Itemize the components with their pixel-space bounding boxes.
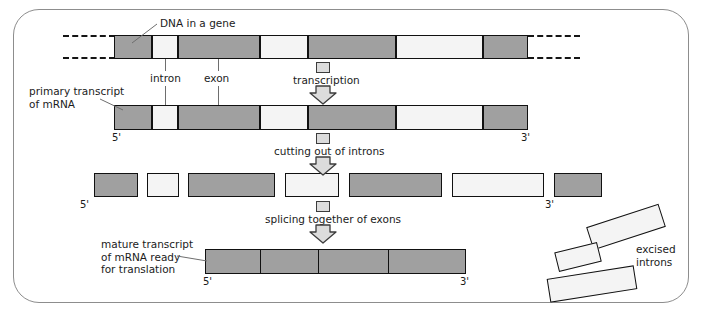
primary-exon-2	[178, 105, 260, 130]
dna-dash-left-top	[63, 35, 115, 37]
intron-label: intron	[150, 72, 181, 85]
dna-intron-2	[260, 35, 308, 59]
dna-intron-1	[152, 35, 178, 59]
primary-five-prime-label: 5'	[112, 132, 121, 143]
primary-intron-3	[396, 105, 483, 130]
cutting-introns-label: cutting out of introns	[274, 145, 385, 158]
intron-leader-upper	[165, 59, 166, 71]
excised-introns-label: excised introns	[636, 243, 676, 268]
dna-exon-2	[178, 35, 260, 59]
dna-intron-3	[396, 35, 483, 59]
mature-five-prime-label: 5'	[203, 276, 212, 287]
mature-transcript-label: mature transcript of mRNA ready for tran…	[101, 238, 193, 276]
cut-exon-1	[94, 173, 138, 197]
splicing-exons-arrow-stem	[316, 201, 330, 212]
primary-transcript-label: primary transcript of mRNA	[29, 85, 124, 110]
dna-exon-1	[114, 35, 152, 59]
transcription-label: transcription	[293, 74, 360, 87]
dna-in-a-gene-label: DNA in a gene	[160, 17, 235, 30]
mature-divider-1	[260, 249, 261, 274]
cut-intron-3	[452, 173, 544, 197]
cut-exon-2	[188, 173, 275, 197]
mature-transcript-bar	[205, 249, 466, 274]
primary-exon-3	[308, 105, 396, 130]
intron-leader-lower	[165, 86, 166, 105]
cutting-introns-arrow-stem	[316, 133, 330, 144]
cut-three-prime-label: 3'	[545, 199, 554, 210]
primary-three-prime-label: 3'	[521, 132, 530, 143]
exon-label: exon	[204, 72, 229, 85]
exon-leader-upper	[218, 59, 219, 71]
dna-dash-right-top	[528, 35, 580, 37]
mature-three-prime-label: 3'	[460, 276, 469, 287]
primary-intron-2	[260, 105, 308, 130]
splicing-exons-label: splicing together of exons	[265, 213, 401, 226]
cut-intron-1	[147, 173, 179, 197]
dna-exon-3	[308, 35, 396, 59]
transcription-splicing-diagram: DNA in a gene primary transcript of mRNA…	[0, 0, 705, 317]
dna-dash-right-bottom	[528, 57, 580, 59]
dna-dash-left-bottom	[63, 57, 115, 59]
cut-five-prime-label: 5'	[80, 199, 89, 210]
cut-exon-4	[554, 173, 602, 197]
mature-divider-2	[318, 249, 319, 274]
dna-exon-4	[483, 35, 528, 59]
cut-intron-2	[285, 173, 339, 197]
mature-divider-3	[388, 249, 389, 274]
cut-exon-3	[349, 173, 442, 197]
primary-intron-1	[152, 105, 178, 130]
transcription-arrow-stem	[316, 62, 330, 73]
exon-leader-lower	[218, 86, 219, 105]
primary-exon-4	[483, 105, 528, 130]
